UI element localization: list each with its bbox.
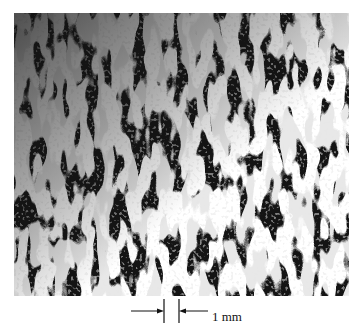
scale-bar-label: 1 mm bbox=[212, 310, 242, 323]
micrograph-image bbox=[14, 13, 349, 296]
scale-bar bbox=[0, 296, 362, 332]
right-arrow-icon bbox=[179, 309, 208, 314]
left-arrow-icon bbox=[131, 309, 164, 314]
